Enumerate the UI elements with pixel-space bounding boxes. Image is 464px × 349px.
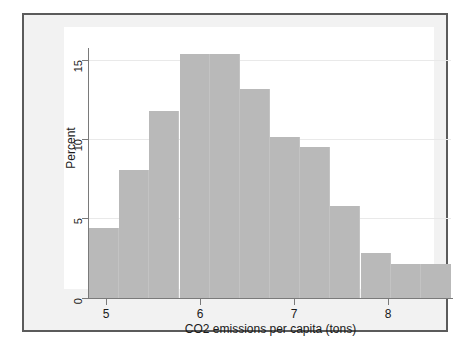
histogram-bars	[89, 45, 451, 298]
histogram-bar	[119, 170, 149, 298]
histogram-bar	[89, 228, 119, 298]
y-tick-label-0: 0	[72, 298, 84, 320]
x-tick-7	[294, 299, 295, 305]
x-tick-label-8: 8	[378, 307, 398, 321]
histogram-bar	[300, 147, 330, 298]
x-tick-label-6: 6	[190, 307, 210, 321]
x-axis-line	[88, 298, 453, 299]
histogram-bar	[240, 89, 270, 298]
histogram-bar	[270, 137, 300, 298]
histogram-bar	[210, 54, 240, 298]
x-tick-6	[200, 299, 201, 305]
histogram-bar	[330, 206, 360, 298]
histogram-bar	[391, 264, 421, 298]
x-tick-label-7: 7	[284, 307, 304, 321]
figure-root: 15 10 5 0 5 6 7 8 Percent CO2 emissions …	[0, 0, 464, 349]
x-tick-label-5: 5	[96, 307, 116, 321]
histogram-bar	[421, 264, 451, 298]
histogram-bar	[361, 253, 391, 298]
histogram-bar	[149, 111, 179, 298]
y-tick-label-15: 15	[72, 60, 84, 82]
figure-frame: 15 10 5 0 5 6 7 8 Percent CO2 emissions …	[22, 13, 448, 332]
x-tick-8	[388, 299, 389, 305]
y-tick-label-5: 5	[72, 218, 84, 240]
y-axis-title: Percent	[64, 127, 78, 168]
x-tick-5	[106, 299, 107, 305]
x-axis-title: CO2 emissions per capita (tons)	[88, 322, 453, 336]
histogram-bar	[180, 54, 210, 298]
